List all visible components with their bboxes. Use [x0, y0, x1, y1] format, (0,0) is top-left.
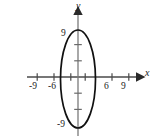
ellipse-graph-figure: ) -9 -6 6 9 9 -9 x — [0, 0, 152, 138]
x-tick-label-6: 6 — [104, 82, 109, 92]
coordinate-plane-svg — [0, 0, 152, 138]
x-tick-label-neg9: -9 — [29, 82, 37, 92]
x-tick-label-neg6: -6 — [48, 82, 56, 92]
y-tick-label-neg9: -9 — [57, 120, 65, 130]
x-tick-label-9: 9 — [121, 82, 126, 92]
y-axis-label: y — [76, 1, 80, 11]
x-axis-label: x — [145, 68, 149, 78]
y-tick-label-9: 9 — [61, 29, 66, 39]
